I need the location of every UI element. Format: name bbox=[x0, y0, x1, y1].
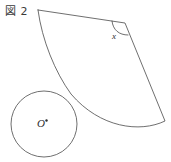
angle-label-x: x bbox=[112, 31, 116, 41]
circle-center-dot bbox=[45, 119, 47, 121]
figure-canvas: 図 2 x O bbox=[0, 0, 171, 162]
circle-center-label-o: O bbox=[37, 117, 45, 129]
figure-caption: 図 2 bbox=[5, 5, 28, 18]
geometry-svg bbox=[0, 0, 171, 162]
